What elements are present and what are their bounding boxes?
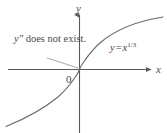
curve-label-y: y (110, 42, 115, 53)
annotation-leader-line (47, 58, 78, 68)
annotation-body: does not exist. (23, 33, 86, 44)
x-axis-label: x (156, 63, 161, 76)
origin-label: 0 (66, 73, 72, 86)
y-axis-label: y (76, 2, 81, 15)
curve-label-equals: = (115, 42, 123, 53)
curve-label-exponent: 1/3 (127, 41, 136, 49)
curve-equation-label: y=x1/3 (110, 42, 136, 54)
math-figure-cube-root: y″ does not exist. y=x1/3 y x 0 (0, 0, 167, 133)
annotation-second-derivative: y″ does not exist. (14, 33, 84, 45)
plot-canvas (0, 0, 167, 133)
